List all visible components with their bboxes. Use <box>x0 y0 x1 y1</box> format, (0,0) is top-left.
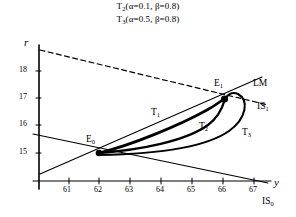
phase-diagram-figure: T2(α=0.1, β=0.8) T3(α=0.5, β=0.8) <box>0 0 296 217</box>
equilibrium-label-e1: E1 <box>214 78 223 89</box>
x-tick-label-67: 67 <box>249 185 257 194</box>
curve-label-lm: LM <box>253 78 267 88</box>
x-tick-label-61: 61 <box>63 185 71 194</box>
lm-text: LM <box>253 78 267 88</box>
equilibrium-label-e0: E0 <box>86 134 95 145</box>
y-tick-label-15: 15 <box>19 147 27 156</box>
is0-curve <box>33 134 268 183</box>
curve-label-t2: T2 <box>199 121 208 132</box>
equilibrium-point-e0 <box>96 150 103 157</box>
x-tick-label-66: 66 <box>218 185 226 194</box>
t2-sub: 2 <box>205 125 208 132</box>
x-tick-label-62: 62 <box>94 185 102 194</box>
y-tick-label-18: 18 <box>19 65 27 74</box>
curve-label-is0: IS0 <box>262 196 274 207</box>
e1-sub: 1 <box>220 82 223 89</box>
t3-sub: 3 <box>248 131 251 138</box>
curve-label-is1: IS1 <box>257 101 269 112</box>
x-axis-name: y <box>274 176 279 188</box>
is1-curve <box>40 50 268 105</box>
y-tick-label-17: 17 <box>19 92 27 101</box>
y-axis-name: r <box>24 36 28 48</box>
curve-label-t1: T1 <box>151 107 160 118</box>
is1-sub: 1 <box>265 105 268 112</box>
curve-label-t3: T3 <box>242 127 251 138</box>
e0-sub: 0 <box>92 138 95 145</box>
lm-curve <box>40 77 262 174</box>
x-tick-label-64: 64 <box>156 185 164 194</box>
y-tick-label-16: 16 <box>19 119 27 128</box>
t1-sub: 1 <box>157 111 160 118</box>
is0-sub: 0 <box>270 200 273 207</box>
x-tick-label-63: 63 <box>125 185 133 194</box>
x-tick-label-65: 65 <box>187 185 195 194</box>
equilibrium-point-e1 <box>221 95 228 102</box>
